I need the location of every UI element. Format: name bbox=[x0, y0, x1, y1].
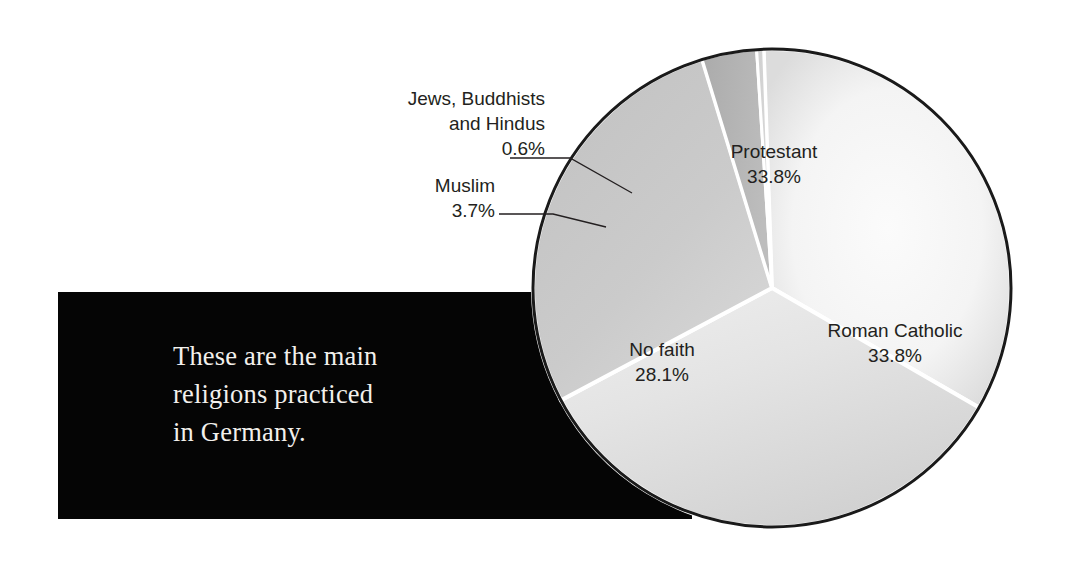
caption-line-1: These are the main bbox=[173, 337, 463, 375]
caption-line-3: in Germany. bbox=[173, 413, 463, 451]
pie-callout-muslim-name: Muslim bbox=[330, 173, 495, 198]
pie-label-no-faith-name: No faith bbox=[567, 337, 757, 362]
caption-text: These are the main religions practiced i… bbox=[173, 337, 463, 451]
pie-callout-muslim-value: 3.7% bbox=[330, 198, 495, 223]
leader-line-jews-buddhists-hindus bbox=[510, 158, 632, 193]
caption-line-2: religions practiced bbox=[173, 375, 463, 413]
chart-page: These are the main religions practiced i… bbox=[0, 0, 1066, 569]
pie-label-no-faith-value: 28.1% bbox=[567, 362, 757, 387]
pie-callout-jews-value: 0.6% bbox=[330, 136, 545, 161]
caption-panel: These are the main religions practiced i… bbox=[58, 292, 692, 519]
pie-label-no-faith: No faith 28.1% bbox=[567, 337, 757, 387]
pie-callout-jews-line-1: Jews, Buddhists bbox=[330, 86, 545, 111]
pie-label-protestant-name: Protestant bbox=[654, 139, 894, 164]
pie-label-protestant: Protestant 33.8% bbox=[654, 139, 894, 189]
leader-line-muslim bbox=[499, 214, 606, 227]
pie-label-roman-catholic-name: Roman Catholic bbox=[780, 318, 1010, 343]
pie-label-roman-catholic: Roman Catholic 33.8% bbox=[780, 318, 1010, 368]
pie-callout-jews-buddhists-hindus: Jews, Buddhists and Hindus 0.6% bbox=[330, 86, 545, 161]
pie-label-roman-catholic-value: 33.8% bbox=[780, 343, 1010, 368]
pie-callout-muslim: Muslim 3.7% bbox=[330, 173, 495, 223]
pie-callout-jews-line-2: and Hindus bbox=[330, 111, 545, 136]
pie-label-protestant-value: 33.8% bbox=[654, 164, 894, 189]
